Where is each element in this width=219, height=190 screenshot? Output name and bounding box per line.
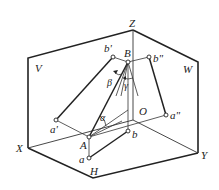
box-frame-w-plane — [133, 30, 198, 153]
point-a — [87, 156, 91, 160]
label-B: B — [124, 47, 131, 59]
box-frame-h-plane — [28, 148, 198, 178]
label-W: W — [183, 63, 193, 75]
point-A — [87, 135, 91, 139]
line-AB — [89, 62, 128, 137]
label-H: H — [89, 165, 99, 177]
line-a'b' — [56, 57, 113, 120]
label-b': b' — [104, 42, 113, 54]
label-Y: Y — [201, 149, 209, 161]
point-b — [126, 129, 130, 133]
angle-beta-arrow — [113, 70, 118, 74]
label-X: X — [15, 142, 24, 154]
point-b' — [111, 55, 115, 59]
label-Z: Z — [129, 17, 136, 29]
label-b: b — [132, 128, 138, 140]
label-V: V — [35, 62, 43, 74]
label-b'': b" — [153, 52, 164, 64]
projection-diagram: Z V W H X Y O B b' b" A a' a" a b α β γ — [0, 0, 219, 190]
aux-line-A-parallel-ab — [89, 110, 128, 137]
y-axis — [133, 120, 198, 153]
point-a'' — [164, 113, 168, 117]
label-alpha: α — [100, 112, 106, 123]
point-a' — [54, 118, 58, 122]
label-a: a — [79, 153, 85, 165]
label-beta: β — [106, 77, 112, 88]
label-A: A — [79, 139, 87, 151]
line-a''b'' — [149, 57, 166, 115]
point-B — [126, 60, 130, 64]
label-a'': a" — [170, 109, 181, 121]
projector-B-b'' — [128, 57, 149, 62]
projector-A-a' — [56, 120, 89, 137]
point-b'' — [147, 55, 151, 59]
box-frame-v-plane — [28, 30, 133, 148]
label-a': a' — [50, 123, 59, 135]
label-O: O — [139, 105, 147, 117]
